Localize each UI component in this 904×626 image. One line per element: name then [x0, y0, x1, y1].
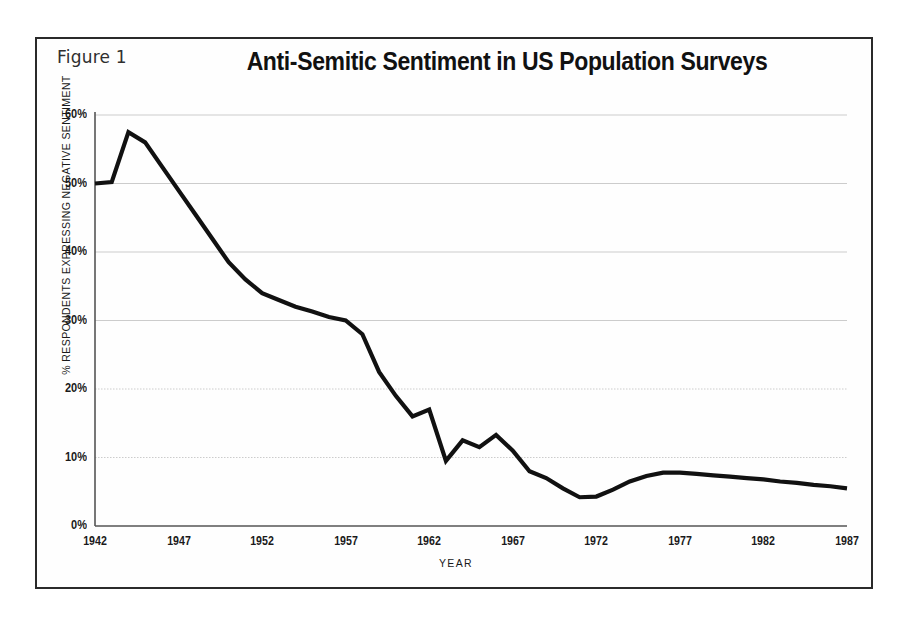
x-axis-tick-label: 1952: [237, 534, 288, 548]
y-axis-tick-label: 20%: [47, 381, 87, 395]
x-axis-tick-label: 1947: [153, 534, 204, 548]
figure-frame: Figure 1 Anti-Semitic Sentiment in US Po…: [35, 37, 873, 589]
x-axis-tick-label: 1957: [320, 534, 371, 548]
x-axis-tick-label: 1962: [404, 534, 455, 548]
x-axis-tick-label: 1967: [487, 534, 538, 548]
x-axis-tick-label: 1987: [822, 534, 873, 548]
x-axis-tick-label: 1977: [654, 534, 705, 548]
x-axis-tick-label: 1972: [571, 534, 622, 548]
plot-area: % RESPONDENTS EXPRESSING NEGATIVE SENTIM…: [37, 39, 875, 591]
x-axis-tick-label: 1942: [70, 534, 121, 548]
x-axis-tick-label: 1982: [738, 534, 789, 548]
line-chart-svg: [37, 39, 875, 591]
y-axis-tick-label: 30%: [47, 313, 87, 327]
y-axis-tick-label: 10%: [47, 450, 87, 464]
y-axis-tick-label: 60%: [47, 107, 87, 121]
y-axis-tick-label: 40%: [47, 244, 87, 258]
y-axis-tick-label: 50%: [47, 176, 87, 190]
y-axis-tick-label: 0%: [47, 518, 87, 532]
